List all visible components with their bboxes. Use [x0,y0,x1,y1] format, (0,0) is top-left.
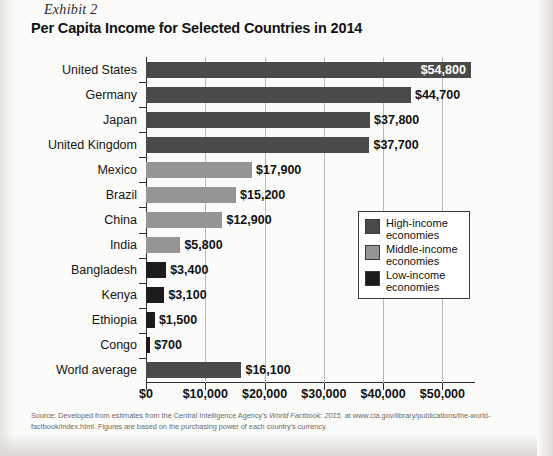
category-label: Brazil [106,184,137,206]
legend-item-middle-income: Middle-income economies [365,244,464,267]
bar-value-label: $16,100 [245,359,290,381]
chart-bar-row: Ethiopia$1,500 [146,309,475,331]
y-axis-tick [139,283,146,284]
bar-value-label: $3,100 [168,284,206,306]
category-label: Germany [86,84,137,106]
chart-bar [146,312,155,328]
legend-label-low-income: Low-income economies [386,270,464,293]
bar-value-label: $37,800 [374,109,419,131]
y-axis-tick [139,132,146,133]
bar-value-label: $3,400 [170,259,208,281]
chart-bar-row: United Kingdom$37,700 [146,134,475,156]
legend-label-middle-income: Middle-income economies [386,244,464,267]
y-axis-tick [139,182,146,183]
chart-bar-row: Germany$44,700 [146,84,475,106]
category-label: Mexico [97,159,137,181]
chart-bar [146,162,252,178]
chart-bar-row: Congo$700 [146,334,475,356]
bar-value-label: $37,700 [373,134,418,156]
chart-bar-row: United States$54,800 [146,59,475,81]
bar-value-label: $54,800 [146,62,471,78]
legend-label-high-income: High-income economies [386,218,464,241]
category-label: Ethiopia [92,309,137,331]
legend-item-low-income: Low-income economies [365,270,464,293]
category-label: United Kingdom [48,134,137,156]
x-axis-label: $30,000 [301,387,346,401]
chart-bar [146,237,180,253]
bar-value-label: $5,800 [184,234,222,256]
chart-bar [146,287,164,303]
y-axis-tick [139,358,146,359]
legend-swatch-low-income [365,271,380,286]
exhibit-page: Exhibit 2 Per Capita Income for Selected… [0,0,553,456]
legend-swatch-high-income [365,219,380,234]
chart-bar-row: World average$16,100 [146,359,475,381]
y-axis-tick [139,258,146,259]
chart-bar [146,137,369,153]
chart-legend: High-income economies Middle-income econ… [358,211,470,299]
page-bottom-shading [0,434,553,456]
chart-bar [146,337,150,353]
source-note: Source: Developed from estimates from th… [31,411,535,432]
legend-item-high-income: High-income economies [365,218,464,241]
source-text-a: Source: Developed from estimates from th… [31,411,269,420]
category-label: Kenya [102,284,137,306]
chart-bar [146,187,236,203]
y-axis-tick [139,207,146,208]
legend-swatch-middle-income [365,245,380,260]
category-label: Bangladesh [71,259,137,281]
category-label: India [110,234,137,256]
bar-value-label: $700 [154,334,182,356]
y-axis-tick [139,308,146,309]
chart-bar [146,362,241,378]
chart-bar-row: Brazil$15,200 [146,184,475,206]
chart-title: Per Capita Income for Selected Countries… [31,20,362,36]
x-axis-label: $10,000 [183,387,228,401]
x-axis-label: $40,000 [361,387,406,401]
bar-value-label: $1,500 [159,309,197,331]
x-axis-label: $50,000 [420,387,465,401]
y-axis-tick [139,82,146,83]
x-axis-label: $0 [139,387,153,401]
source-text-line2: /index.html. Figures are based on the pu… [59,422,328,431]
exhibit-number: Exhibit 2 [44,2,98,18]
chart-bar [146,87,411,103]
y-axis-tick [139,107,146,108]
bar-value-label: $15,200 [240,184,285,206]
chart-bar-row: Japan$37,800 [146,109,475,131]
source-title-italic: World Factbook: 2015, [269,411,342,420]
y-axis-tick [139,333,146,334]
y-axis-tick [139,157,146,158]
category-label: United States [62,59,137,81]
category-label: Congo [100,334,137,356]
chart-bar [146,112,370,128]
x-axis-label: $20,000 [242,387,287,401]
y-axis-tick [139,233,146,234]
category-label: China [104,209,137,231]
chart-bar-row: Mexico$17,900 [146,159,475,181]
bar-value-label: $12,900 [226,209,271,231]
bar-value-label: $44,700 [415,84,460,106]
chart-bar [146,212,222,228]
bar-value-label: $17,900 [256,159,301,181]
category-label: World average [56,359,137,381]
chart-bar [146,262,166,278]
category-label: Japan [103,109,137,131]
